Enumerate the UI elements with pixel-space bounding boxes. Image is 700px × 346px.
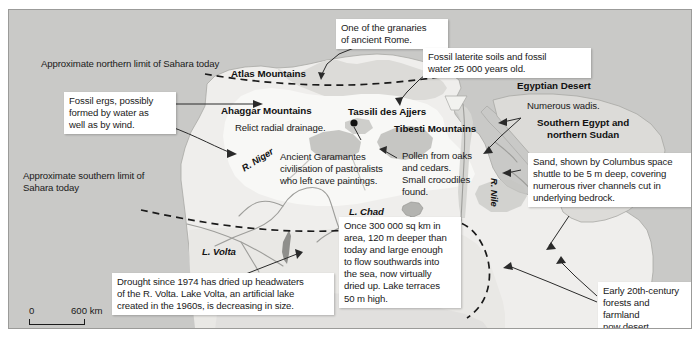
callout-early-20th-century: Early 20th-century forests and farmland … (598, 282, 692, 329)
southern-limit-label: Approximate southern limit of Sahara tod… (23, 170, 198, 194)
egyptian-desert-label: Egyptian Desert (517, 80, 591, 92)
ahaggar-mountains-label: Ahaggar Mountains (221, 105, 312, 117)
scale-bar: 0 600 km (29, 305, 139, 325)
callout-sand-columbus: Sand, shown by Columbus space shuttle to… (528, 153, 691, 207)
map-frame: Approximate northern limit of Sahara tod… (8, 9, 692, 329)
numerous-wadis-label: Numerous wadis. (527, 100, 600, 112)
sahara-map-figure: Approximate northern limit of Sahara tod… (0, 0, 700, 346)
callout-fossil-ergs: Fossil ergs, possibly formed by water as… (64, 92, 176, 134)
lake-volta-label: L. Volta (202, 246, 236, 257)
lake-chad-label: L. Chad (349, 206, 384, 217)
tassili-des-ajjers-label: Tassili des Ajjers (348, 106, 426, 118)
river-nile-label: R. Nile (489, 178, 499, 207)
scale-bar-max: 600 km (71, 305, 102, 316)
tibesti-mountains-label: Tibesti Mountains (394, 123, 476, 135)
scale-bar-numbers: 0 600 km (29, 305, 139, 318)
pollen-oaks-cedars-label: Pollen from oaks and cedars. Small croco… (402, 150, 482, 198)
callout-granaries-rome: One of the granaries of ancient Rome. (336, 19, 448, 49)
callout-fossil-laterite: Fossil laterite soils and fossil water 2… (423, 48, 591, 78)
atlas-mountains-label: Atlas Mountains (231, 68, 306, 80)
southern-egypt-northern-sudan-label: Southern Egypt and northern Sudan (537, 117, 629, 141)
scale-bar-zero: 0 (29, 305, 34, 316)
callout-lake-chad-extent: Once 300 000 sq km in area, 120 m deeper… (339, 217, 461, 308)
ancient-garamantes-label: Ancient Garamantes civilisation of pasto… (280, 151, 408, 187)
tassili-site-dot (350, 119, 357, 126)
scale-bar-line (29, 319, 85, 325)
callout-volta-drought: Drought since 1974 has dried up headwate… (112, 273, 334, 315)
relict-radial-drainage-label: Relict radial drainage. (235, 122, 326, 134)
